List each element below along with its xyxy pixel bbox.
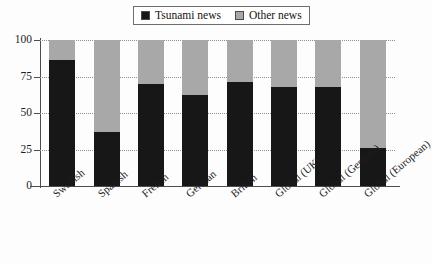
x-axis-line bbox=[30, 186, 400, 187]
bar-segment-other-news bbox=[360, 40, 386, 148]
bar-segment-tsunami-news bbox=[227, 82, 253, 186]
legend-label-other-news: Other news bbox=[249, 10, 302, 22]
bar-segment-other-news bbox=[94, 40, 120, 132]
bar-segment-other-news bbox=[227, 40, 253, 82]
legend-label-tsunami-news: Tsunami news bbox=[155, 10, 221, 22]
bar-segment-other-news bbox=[315, 40, 341, 87]
y-axis-tick-label: 25 bbox=[4, 144, 32, 156]
bar-stack[interactable] bbox=[49, 40, 75, 186]
plot-area bbox=[40, 40, 395, 186]
y-axis-tick-label: 0 bbox=[4, 180, 32, 192]
legend-entry-other-news: Other news bbox=[235, 10, 302, 22]
y-axis-tick-label: 100 bbox=[4, 34, 32, 46]
bar-segment-tsunami-news bbox=[138, 84, 164, 186]
bar-segment-other-news bbox=[138, 40, 164, 84]
bar-segment-other-news bbox=[271, 40, 297, 87]
bar-stack[interactable] bbox=[227, 40, 253, 186]
bar-segment-other-news bbox=[49, 40, 75, 60]
bar-segment-other-news bbox=[182, 40, 208, 95]
legend-entry-tsunami-news: Tsunami news bbox=[141, 10, 221, 22]
bar-stack[interactable] bbox=[138, 40, 164, 186]
bar-stack[interactable] bbox=[182, 40, 208, 186]
bar-segment-tsunami-news bbox=[49, 60, 75, 186]
y-axis-tick-label: 50 bbox=[4, 107, 32, 119]
legend-swatch-other-news bbox=[235, 11, 244, 20]
bar-stack[interactable] bbox=[271, 40, 297, 186]
chart-legend: Tsunami news Other news bbox=[133, 6, 310, 25]
y-axis-tick-labels: 1007550250 bbox=[0, 0, 32, 265]
bar-stack[interactable] bbox=[94, 40, 120, 186]
legend-swatch-tsunami-news bbox=[141, 11, 150, 20]
y-axis-tick-label: 75 bbox=[4, 71, 32, 83]
